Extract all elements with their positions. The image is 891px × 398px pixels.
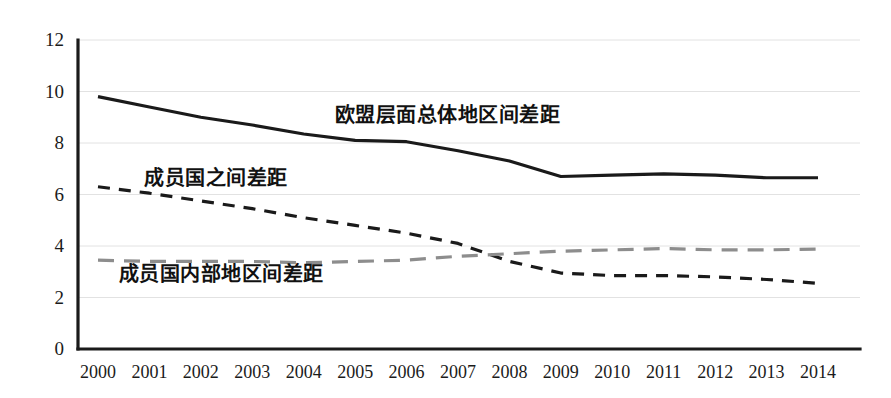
series-annotation-3: 成员国内部地区间差距 — [119, 264, 324, 284]
y-tick-label: 8 — [24, 133, 64, 152]
series-annotation-1: 欧盟层面总体地区间差距 — [335, 105, 561, 125]
y-tick-label: 6 — [24, 185, 64, 204]
line-chart-plot — [0, 0, 891, 398]
y-tick-label: 0 — [24, 339, 64, 358]
y-tick-label: 12 — [24, 30, 64, 49]
series-annotation-2: 成员国之间差距 — [144, 168, 288, 188]
y-tick-label: 4 — [24, 236, 64, 255]
chart-figure: 121086420 200020012002200320042005200620… — [0, 0, 891, 398]
x-tick-label: 2014 — [788, 363, 848, 381]
y-tick-label: 2 — [24, 288, 64, 307]
y-tick-label: 10 — [24, 82, 64, 101]
chart-background — [0, 0, 891, 398]
